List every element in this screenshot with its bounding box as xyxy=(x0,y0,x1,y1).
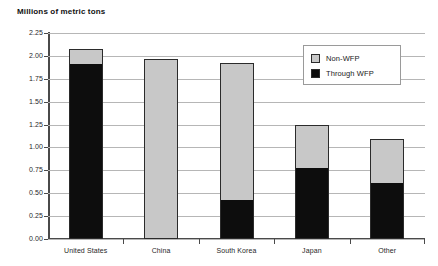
bar-segment-through-wfp[interactable] xyxy=(371,183,403,238)
x-axis-category-label: Other xyxy=(350,247,425,254)
gridline xyxy=(48,239,425,240)
stacked-bar[interactable] xyxy=(144,59,178,239)
bar-segment-through-wfp[interactable] xyxy=(221,200,253,238)
bar-segment-through-wfp[interactable] xyxy=(70,64,102,238)
bar-segment-non-wfp[interactable] xyxy=(296,126,328,169)
y-axis-tick-mark xyxy=(44,170,48,171)
y-axis-tick-mark xyxy=(44,102,48,103)
bar-group[interactable] xyxy=(144,33,178,239)
x-axis-category-label: Japan xyxy=(274,247,349,254)
legend-label-non-wfp: Non-WFP xyxy=(326,54,360,63)
y-axis-tick-mark xyxy=(44,216,48,217)
y-axis-tick-label: 0.00 xyxy=(29,235,43,242)
y-axis-tick-label: 2.25 xyxy=(29,29,43,36)
y-axis-tick-mark xyxy=(44,33,48,34)
y-axis-tick-mark xyxy=(44,125,48,126)
bar-segment-non-wfp[interactable] xyxy=(70,50,102,64)
y-axis-tick-label: 1.25 xyxy=(29,121,43,128)
x-axis-tick-mark xyxy=(123,239,124,244)
bar-segment-non-wfp[interactable] xyxy=(221,64,253,200)
stacked-bar[interactable] xyxy=(295,125,329,239)
x-axis-tick-mark xyxy=(199,239,200,244)
legend-label-through-wfp: Through WFP xyxy=(326,69,374,78)
x-axis-category-label: United States xyxy=(48,247,123,254)
bar-chart: Millions of metric tons 0.000.250.500.75… xyxy=(0,0,438,266)
y-axis-tick-mark xyxy=(44,56,48,57)
bar-segment-through-wfp[interactable] xyxy=(296,168,328,238)
stacked-bar[interactable] xyxy=(370,139,404,239)
y-axis-tick-mark xyxy=(44,193,48,194)
y-axis-tick-label: 1.50 xyxy=(29,98,43,105)
bar-group[interactable] xyxy=(220,33,254,239)
y-axis-tick-label: 2.00 xyxy=(29,52,43,59)
y-axis-tick-label: 1.00 xyxy=(29,143,43,150)
bar-segment-non-wfp[interactable] xyxy=(145,60,177,238)
x-axis-tick-mark xyxy=(274,239,275,244)
y-axis-tick-label: 0.50 xyxy=(29,189,43,196)
legend-item-through-wfp: Through WFP xyxy=(311,66,400,81)
legend-item-non-wfp: Non-WFP xyxy=(311,51,400,66)
y-axis-labels: 0.000.250.500.751.001.251.501.752.002.25 xyxy=(0,0,43,266)
legend-swatch-non-wfp xyxy=(311,54,320,63)
x-axis-tick-mark xyxy=(350,239,351,244)
legend-swatch-through-wfp xyxy=(311,69,320,78)
y-axis-tick-label: 1.75 xyxy=(29,75,43,82)
x-axis-category-label: South Korea xyxy=(199,247,274,254)
y-axis-tick-mark xyxy=(44,79,48,80)
y-axis-tick-label: 0.75 xyxy=(29,166,43,173)
y-axis-tick-mark xyxy=(44,239,48,240)
stacked-bar[interactable] xyxy=(69,49,103,239)
x-axis-tick-mark xyxy=(424,239,425,244)
y-axis-tick-label: 0.25 xyxy=(29,212,43,219)
y-axis-tick-mark xyxy=(44,147,48,148)
chart-legend: Non-WFP Through WFP xyxy=(303,45,401,85)
stacked-bar[interactable] xyxy=(220,63,254,239)
x-axis-category-label: China xyxy=(123,247,198,254)
bar-group[interactable] xyxy=(69,33,103,239)
bar-segment-non-wfp[interactable] xyxy=(371,140,403,183)
